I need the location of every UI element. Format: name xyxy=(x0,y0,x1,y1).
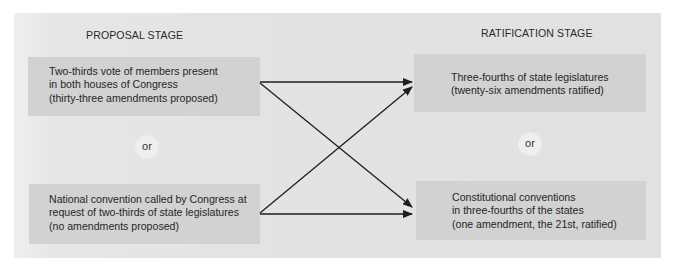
flow-arrows xyxy=(0,0,683,258)
arrow-congress-to-conventions xyxy=(260,83,412,207)
arrow-national-convention-to-legislatures xyxy=(260,87,412,213)
